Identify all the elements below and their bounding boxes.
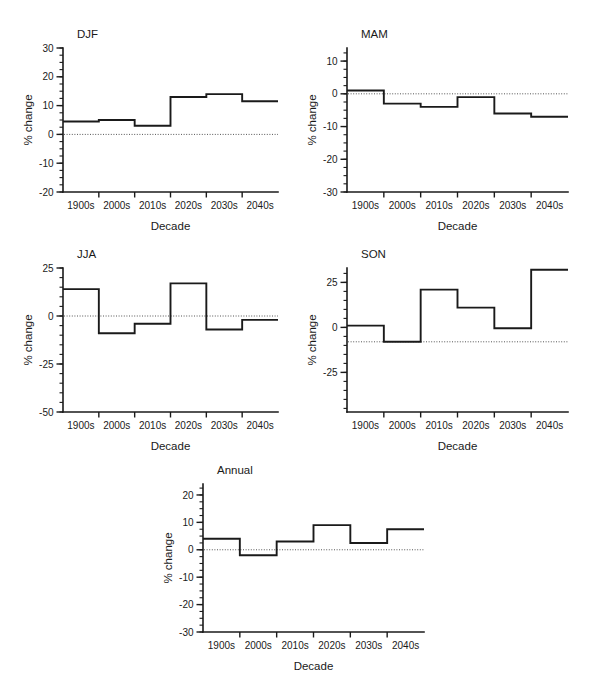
panel-title: SON: [361, 248, 386, 260]
x-tick-label: 2000s: [103, 200, 130, 211]
y-axis-title: % change: [306, 314, 318, 365]
y-tick-label: 25: [42, 263, 54, 274]
x-tick-label: 2000s: [389, 200, 416, 211]
y-tick-label: -25: [323, 367, 338, 378]
panel-title: DJF: [77, 28, 98, 40]
seasonal-percent-change-figure: DJF3020100-10-201900s2000s2010s2020s2030…: [0, 0, 589, 688]
x-tick-label: 2000s: [103, 420, 130, 431]
y-tick-label: -30: [323, 187, 338, 198]
x-tick-label: 2000s: [245, 640, 272, 651]
x-axis-title: Decade: [151, 440, 191, 452]
y-tick-label: -10: [179, 572, 194, 583]
x-tick-label: 2040s: [536, 420, 563, 431]
panel-son: SON250-251900s2000s2010s2020s2030s2040sD…: [300, 242, 582, 464]
x-tick-label: 2010s: [425, 420, 452, 431]
x-tick-label: 2030s: [211, 200, 238, 211]
x-axis-title: Decade: [438, 440, 478, 452]
y-tick-label: 0: [48, 311, 54, 322]
x-tick-label: 2040s: [392, 640, 419, 651]
step-series-mam: [347, 91, 568, 117]
panel-title: JJA: [77, 248, 97, 260]
y-tick-label: 0: [188, 544, 194, 555]
x-axis-title: Decade: [438, 220, 478, 232]
y-tick-label: -20: [39, 187, 54, 198]
x-tick-label: 2040s: [246, 200, 273, 211]
step-series-annual: [203, 525, 424, 555]
x-tick-label: 1900s: [208, 640, 235, 651]
panel-mam: MAM100-10-20-301900s2000s2010s2020s2030s…: [300, 22, 582, 244]
y-axis-title: % change: [22, 94, 34, 145]
x-tick-label: 2040s: [536, 200, 563, 211]
y-axis-title: % change: [162, 532, 174, 583]
x-tick-label: 2010s: [425, 200, 452, 211]
x-tick-label: 2030s: [211, 420, 238, 431]
x-tick-label: 1900s: [67, 420, 94, 431]
panel-annual: Annual20100-10-20-301900s2000s2010s2020s…: [156, 458, 438, 684]
y-tick-label: 0: [48, 129, 54, 140]
y-tick-label: 20: [42, 71, 54, 82]
y-tick-label: -10: [39, 158, 54, 169]
y-tick-label: -50: [39, 407, 54, 418]
x-tick-label: 2010s: [139, 200, 166, 211]
y-tick-label: -20: [179, 599, 194, 610]
y-tick-label: -25: [39, 359, 54, 370]
y-tick-label: 30: [42, 43, 54, 54]
x-tick-label: 2010s: [281, 640, 308, 651]
x-tick-label: 1900s: [67, 200, 94, 211]
step-series-jja: [63, 283, 278, 333]
x-tick-label: 2030s: [499, 420, 526, 431]
x-tick-label: 2000s: [389, 420, 416, 431]
x-tick-label: 1900s: [352, 200, 379, 211]
y-tick-label: 10: [182, 517, 194, 528]
step-series-djf: [63, 94, 278, 126]
panel-title: MAM: [361, 28, 388, 40]
x-tick-label: 2030s: [355, 640, 382, 651]
y-tick-label: 25: [326, 277, 338, 288]
y-tick-label: -30: [179, 627, 194, 638]
panel-jja: JJA250-25-501900s2000s2010s2020s2030s204…: [16, 242, 292, 464]
y-axis-title: % change: [22, 314, 34, 365]
x-tick-label: 2020s: [175, 200, 202, 211]
y-tick-label: 0: [332, 322, 338, 333]
x-tick-label: 2010s: [139, 420, 166, 431]
y-axis-title: % change: [306, 94, 318, 145]
x-tick-label: 2020s: [318, 640, 345, 651]
panel-title: Annual: [217, 464, 253, 476]
x-tick-label: 2020s: [175, 420, 202, 431]
x-tick-label: 1900s: [352, 420, 379, 431]
x-axis-title: Decade: [151, 220, 191, 232]
y-tick-label: 20: [182, 490, 194, 501]
x-tick-label: 2030s: [499, 200, 526, 211]
y-tick-label: 10: [326, 56, 338, 67]
y-tick-label: 10: [42, 100, 54, 111]
y-tick-label: 0: [332, 88, 338, 99]
panel-djf: DJF3020100-10-201900s2000s2010s2020s2030…: [16, 22, 292, 244]
x-axis-title: Decade: [294, 660, 334, 672]
y-tick-label: -10: [323, 121, 338, 132]
y-tick-label: -20: [323, 154, 338, 165]
x-tick-label: 2020s: [462, 200, 489, 211]
x-tick-label: 2020s: [462, 420, 489, 431]
x-tick-label: 2040s: [246, 420, 273, 431]
step-series-son: [347, 270, 568, 342]
